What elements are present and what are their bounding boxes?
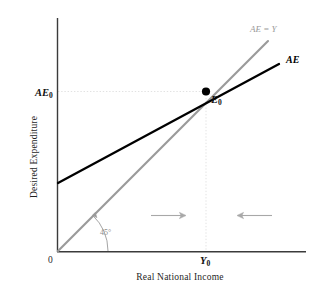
angle-label: 45°	[100, 229, 111, 237]
forty-five-degree-line-label: AE = Y	[250, 25, 277, 34]
ae-line-label: AE	[286, 55, 299, 65]
ae-zero-axis-label-text: AE	[35, 87, 49, 98]
chart-figure: Desired Expenditure Real National Income…	[0, 0, 323, 301]
equilibrium-point-label-subscript: 0	[218, 98, 222, 107]
origin-label: 0	[48, 256, 53, 266]
forty-five-degree-line	[58, 41, 268, 251]
arrow-right	[151, 212, 186, 218]
y-zero-axis-label-subscript: 0	[206, 259, 210, 268]
ae-zero-axis-label: AE0	[35, 88, 53, 100]
equilibrium-point-marker	[202, 87, 210, 95]
x-axis-title: Real National Income	[105, 273, 255, 283]
ae-zero-axis-label-subscript: 0	[49, 91, 53, 100]
y-axis-title: Desired Expenditure	[30, 116, 40, 198]
y-zero-axis-label: Y0	[200, 256, 210, 268]
ae-line	[58, 64, 279, 183]
equilibrium-point-label-text: E	[211, 94, 218, 105]
equilibrium-point-label: E0	[211, 95, 222, 107]
arrow-left	[237, 212, 272, 218]
